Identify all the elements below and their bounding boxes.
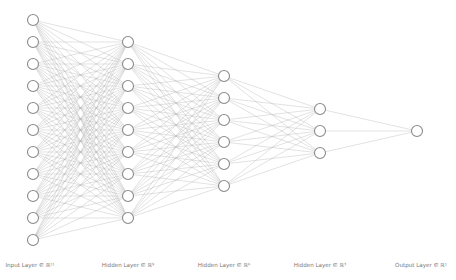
connection-edge: [320, 109, 417, 131]
connection-edge: [128, 76, 224, 152]
connection-edge: [224, 109, 320, 164]
connection-edge: [224, 153, 320, 186]
input-neuron: [28, 191, 39, 202]
connection-edge: [33, 130, 128, 240]
connection-edge: [33, 42, 128, 240]
input-neuron: [28, 37, 39, 48]
input-neuron: [28, 169, 39, 180]
hidden-3-neuron: [315, 126, 326, 137]
connection-edge: [224, 109, 320, 120]
output-neuron: [412, 126, 423, 137]
input-neuron: [28, 147, 39, 158]
input-neuron: [28, 213, 39, 224]
hidden-2-neuron: [219, 93, 230, 104]
connection-edge: [224, 76, 320, 109]
connections: [33, 20, 417, 240]
connection-edge: [33, 218, 128, 240]
input-neuron: [28, 15, 39, 26]
connection-edge: [128, 42, 224, 76]
hidden-2-neuron: [219, 159, 230, 170]
hidden-layer-3-label: Hidden Layer ∈ ℝ³: [294, 262, 346, 268]
hidden-2-neuron: [219, 181, 230, 192]
connection-edge: [224, 109, 320, 186]
hidden-2-neuron: [219, 137, 230, 148]
hidden-2-neuron: [219, 115, 230, 126]
input-layer-label: Input Layer ∈ ℝ¹¹: [5, 262, 54, 268]
network-diagram: [0, 0, 456, 280]
input-neuron: [28, 103, 39, 114]
hidden-3-neuron: [315, 148, 326, 159]
connection-edge: [33, 20, 128, 42]
input-neuron: [28, 125, 39, 136]
hidden-2-neuron: [219, 71, 230, 82]
connection-edge: [128, 76, 224, 196]
input-neuron: [28, 59, 39, 70]
connection-edge: [128, 142, 224, 218]
hidden-1-neuron: [123, 37, 134, 48]
hidden-layer-1-label: Hidden Layer ∈ ℝ⁹: [102, 262, 154, 268]
hidden-1-neuron: [123, 147, 134, 158]
input-neuron: [28, 235, 39, 246]
hidden-1-neuron: [123, 103, 134, 114]
hidden-1-neuron: [123, 125, 134, 136]
hidden-layer-2-label: Hidden Layer ∈ ℝ⁶: [198, 262, 250, 268]
input-neuron: [28, 81, 39, 92]
connection-edge: [320, 131, 417, 153]
output-layer-label: Output Layer ∈ ℝ¹: [395, 262, 447, 268]
connection-edge: [128, 64, 224, 76]
connection-edge: [224, 109, 320, 142]
connection-edge: [33, 86, 128, 240]
connection-edge: [224, 131, 320, 186]
connection-edge: [224, 98, 320, 109]
connection-edge: [33, 174, 128, 240]
hidden-1-neuron: [123, 81, 134, 92]
hidden-1-neuron: [123, 213, 134, 224]
connection-edge: [128, 98, 224, 218]
hidden-1-neuron: [123, 191, 134, 202]
hidden-1-neuron: [123, 59, 134, 70]
hidden-3-neuron: [315, 104, 326, 115]
hidden-1-neuron: [123, 169, 134, 180]
